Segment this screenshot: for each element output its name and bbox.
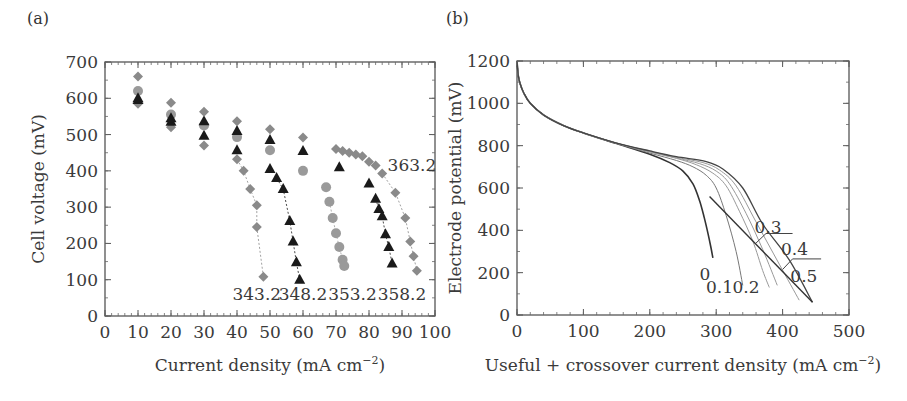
curve-0.5 <box>517 61 812 302</box>
x-tick-label: 0 <box>512 321 523 341</box>
y-tick-label: 200 <box>478 263 510 283</box>
chart-b-ylabel: Electrode potential (mV) <box>445 82 465 295</box>
circle-marker <box>328 213 338 223</box>
series-363.2 <box>133 72 422 276</box>
y-tick-label: 1000 <box>467 93 510 113</box>
diamond-marker <box>377 168 387 178</box>
diamond-marker <box>166 98 176 108</box>
triangle-marker <box>271 172 282 182</box>
series-connector <box>237 159 263 277</box>
series-358.2 <box>133 92 398 267</box>
diamond-marker <box>239 166 249 176</box>
chart-b: 0100200300400500020040060080010001200 00… <box>445 51 881 375</box>
circle-marker <box>331 228 341 238</box>
triangle-marker <box>294 274 305 284</box>
chart-a: 0102030405060708090100010020030040050060… <box>28 52 451 375</box>
chart-a-series <box>133 72 422 284</box>
circle-marker <box>265 145 275 155</box>
temperature-label: 343.2 <box>232 284 281 304</box>
series-348.2 <box>133 94 306 284</box>
circle-marker <box>298 166 308 176</box>
curve-label: 0.2 <box>733 277 760 297</box>
diamond-marker <box>232 116 242 126</box>
diamond-marker <box>245 184 255 194</box>
chart-b-annotations: 00.10.20.30.40.5 <box>699 217 821 297</box>
chart-a-xlabel: Current density (mA cm−2) <box>155 354 385 375</box>
panel-a-label: (a) <box>27 9 49 28</box>
y-tick-label: 300 <box>66 197 98 217</box>
diamond-marker <box>412 266 422 276</box>
y-tick-label: 700 <box>66 52 98 72</box>
x-tick-label: 100 <box>567 321 599 341</box>
triangle-marker <box>298 145 309 155</box>
circle-marker <box>321 182 331 192</box>
triangle-marker <box>265 163 276 173</box>
y-tick-label: 0 <box>499 305 510 325</box>
x-tick-label: 20 <box>160 322 182 342</box>
diamond-marker <box>400 213 410 223</box>
diamond-marker <box>390 188 400 198</box>
triangle-marker <box>232 125 243 135</box>
curve-0.1 <box>517 61 743 285</box>
diamond-marker <box>199 107 209 117</box>
curve-0.4 <box>517 61 799 300</box>
curve-label: 0.1 <box>706 277 733 297</box>
x-tick-label: 400 <box>766 321 798 341</box>
y-tick-label: 0 <box>87 306 98 326</box>
chart-a-frame <box>105 62 435 316</box>
diamond-marker <box>258 272 268 282</box>
x-tick-label: 70 <box>325 322 347 342</box>
x-tick-label: 300 <box>700 321 732 341</box>
triangle-marker <box>284 215 295 225</box>
y-tick-label: 600 <box>66 88 98 108</box>
triangle-marker <box>278 183 289 193</box>
temperature-label: 353.2 <box>328 284 377 304</box>
temperature-label: 348.2 <box>279 284 328 304</box>
curve-label: 0.5 <box>790 266 817 286</box>
chart-b-tick-labels: 0100200300400500020040060080010001200 <box>467 51 865 341</box>
y-tick-label: 600 <box>478 178 510 198</box>
triangle-marker <box>265 134 276 144</box>
diamond-marker <box>409 251 419 261</box>
x-tick-label: 0 <box>100 322 111 342</box>
x-tick-label: 40 <box>226 322 248 342</box>
x-tick-label: 10 <box>127 322 149 342</box>
triangle-marker <box>291 256 302 266</box>
diamond-marker <box>133 72 143 82</box>
y-tick-label: 400 <box>478 220 510 240</box>
temperature-label: 363.2 <box>388 155 437 175</box>
y-tick-label: 200 <box>66 233 98 253</box>
diamond-marker <box>252 200 262 210</box>
curve-label: 0.3 <box>754 217 781 237</box>
chart-a-ticks <box>105 62 435 316</box>
x-tick-label: 90 <box>391 322 413 342</box>
x-tick-label: 50 <box>259 322 281 342</box>
triangle-marker <box>364 178 375 188</box>
x-tick-label: 60 <box>292 322 314 342</box>
series-353.2 <box>133 86 349 271</box>
diamond-marker <box>232 154 242 164</box>
y-tick-label: 800 <box>478 136 510 156</box>
triangle-marker <box>288 236 299 246</box>
curve-label: 0.4 <box>781 239 808 259</box>
y-tick-label: 400 <box>66 161 98 181</box>
diamond-marker <box>199 140 209 150</box>
diamond-marker <box>405 237 415 247</box>
circle-marker <box>334 242 344 252</box>
triangle-marker <box>334 161 345 171</box>
y-tick-label: 100 <box>66 270 98 290</box>
temperature-label: 358.2 <box>378 284 427 304</box>
diamond-marker <box>265 124 275 134</box>
triangle-marker <box>387 257 398 267</box>
x-tick-label: 80 <box>358 322 380 342</box>
chart-b-xlabel: Useful + crossover current density (mA c… <box>485 354 881 375</box>
y-tick-label: 1200 <box>467 51 510 71</box>
curve-0.2 <box>517 61 769 287</box>
y-tick-label: 500 <box>66 125 98 145</box>
x-tick-label: 200 <box>634 321 666 341</box>
diamond-marker <box>298 132 308 142</box>
circle-marker <box>339 261 349 271</box>
triangle-marker <box>383 241 394 251</box>
circle-marker <box>324 197 334 207</box>
x-tick-label: 30 <box>193 322 215 342</box>
